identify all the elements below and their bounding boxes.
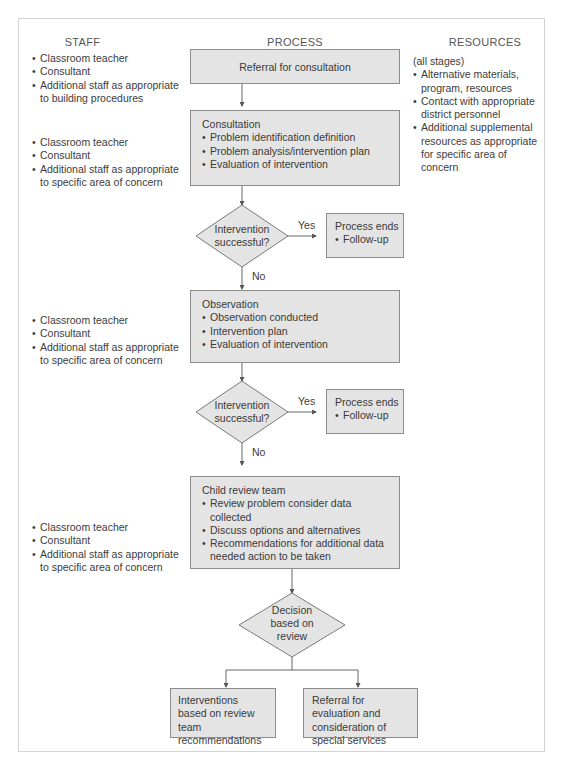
outcome-referral-label: Referral for evaluation and consideratio…	[312, 694, 386, 746]
staff-item: Classroom teacher	[32, 521, 182, 534]
resource-item: Additional supplemental resources as app…	[413, 121, 541, 174]
consultation-item: Evaluation of intervention	[202, 158, 399, 171]
decision-2-label: Intervention successful?	[196, 399, 288, 425]
process-ends-box-2: Process ends Follow-up	[326, 389, 404, 434]
review-team-item: Review problem consider data collected	[202, 497, 393, 524]
decision-1-yes-label: Yes	[298, 219, 315, 231]
observation-item: Intervention plan	[202, 325, 399, 338]
staff-group-2: Classroom teacher Consultant Additional …	[32, 136, 182, 189]
staff-item: Classroom teacher	[32, 136, 182, 149]
consultation-item: Problem analysis/intervention plan	[202, 145, 399, 158]
decision-1-no-label: No	[252, 270, 265, 282]
referral-box: Referral for consultation	[190, 49, 400, 84]
column-header-staff: STAFF	[30, 36, 135, 48]
column-header-resources: RESOURCES	[430, 36, 540, 48]
staff-group-4: Classroom teacher Consultant Additional …	[32, 521, 182, 574]
staff-item: Additional staff as appropriate to speci…	[32, 548, 182, 575]
staff-item: Consultant	[32, 534, 182, 547]
process-ends-title: Process ends	[335, 396, 403, 409]
child-review-team-box: Child review team Review problem conside…	[190, 476, 400, 569]
resources-list: (all stages) Alternative materials, prog…	[413, 55, 541, 175]
observation-item: Observation conducted	[202, 311, 399, 324]
review-team-item: Recommendations for additional data need…	[202, 537, 393, 564]
follow-up-item: Follow-up	[335, 233, 403, 246]
staff-item: Consultant	[32, 149, 182, 162]
outcome-referral-box: Referral for evaluation and consideratio…	[303, 688, 418, 738]
staff-group-3: Classroom teacher Consultant Additional …	[32, 314, 182, 367]
staff-group-1: Classroom teacher Consultant Additional …	[32, 52, 182, 105]
consultation-title: Consultation	[202, 118, 399, 131]
staff-item: Additional staff as appropriate to speci…	[32, 341, 182, 368]
decision-1-label: Intervention successful?	[196, 223, 288, 249]
column-header-process: PROCESS	[190, 36, 400, 48]
outcome-interventions-box: Interventions based on review team recom…	[170, 688, 276, 738]
observation-box: Observation Observation conducted Interv…	[190, 290, 400, 363]
consultation-box: Consultation Problem identification defi…	[190, 110, 400, 186]
review-team-title: Child review team	[202, 484, 393, 497]
staff-item: Additional staff as appropriate to build…	[32, 79, 182, 106]
outcome-interventions-label: Interventions based on review team recom…	[178, 694, 261, 746]
resource-item: Alternative materials, program, resource…	[413, 68, 541, 95]
review-team-item: Discuss options and alternatives	[202, 524, 393, 537]
process-ends-title: Process ends	[335, 220, 403, 233]
staff-item: Additional staff as appropriate to speci…	[32, 163, 182, 190]
observation-title: Observation	[202, 298, 399, 311]
follow-up-item: Follow-up	[335, 409, 403, 422]
decision-2-no-label: No	[252, 446, 265, 458]
resources-intro: (all stages)	[413, 55, 541, 68]
decision-2-yes-label: Yes	[298, 395, 315, 407]
staff-item: Classroom teacher	[32, 52, 182, 65]
referral-label: Referral for consultation	[239, 61, 350, 73]
process-ends-box-1: Process ends Follow-up	[326, 213, 404, 258]
staff-item: Consultant	[32, 65, 182, 78]
staff-item: Classroom teacher	[32, 314, 182, 327]
consultation-item: Problem identification definition	[202, 131, 399, 144]
resource-item: Contact with appropriate district person…	[413, 95, 541, 122]
observation-item: Evaluation of intervention	[202, 338, 399, 351]
staff-item: Consultant	[32, 327, 182, 340]
decision-3-label: Decision based on review	[252, 604, 332, 643]
